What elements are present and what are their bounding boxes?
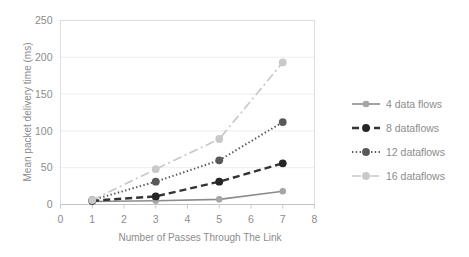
data-point-2-1: [152, 178, 160, 186]
y-tick-label-100: 100: [35, 125, 53, 137]
legend-marker-1: [362, 124, 370, 132]
y-tick-label-200: 200: [35, 51, 53, 63]
legend-label-0: 4 data flows: [386, 98, 442, 110]
x-tick-label-6: 6: [248, 213, 254, 225]
y-tick-label-250: 250: [35, 14, 53, 26]
data-point-1-1: [152, 193, 160, 201]
legend-marker-0: [363, 101, 370, 108]
x-tick-label-2: 2: [121, 213, 127, 225]
data-point-1-2: [215, 178, 223, 186]
data-point-3-0: [88, 196, 96, 204]
legend-label-2: 12 dataflows: [386, 146, 445, 158]
data-point-0-3: [279, 188, 286, 195]
y-axis-title: Mean packet delivery time (ms): [22, 43, 33, 182]
y-tick-label-50: 50: [41, 161, 53, 173]
x-tick-label-3: 3: [153, 213, 159, 225]
legend-marker-3: [362, 172, 370, 180]
x-tick-label-4: 4: [185, 213, 191, 225]
line-chart: 050100150200250 012345678 Number of Pass…: [0, 0, 469, 257]
data-point-2-3: [279, 118, 287, 126]
x-tick-label-0: 0: [58, 213, 64, 225]
y-tick-label-0: 0: [47, 198, 53, 210]
x-axis-title: Number of Passes Through The Link: [118, 232, 282, 243]
x-tick-label-7: 7: [280, 213, 286, 225]
data-point-2-2: [215, 156, 223, 164]
data-point-0-2: [216, 196, 223, 203]
x-tick-label-5: 5: [216, 213, 222, 225]
legend-label-3: 16 dataflows: [386, 170, 445, 182]
x-tick-label-1: 1: [89, 213, 95, 225]
chart-container: 050100150200250 012345678 Number of Pass…: [0, 0, 469, 257]
data-point-3-1: [152, 165, 160, 173]
legend-label-1: 8 dataflows: [386, 122, 439, 134]
x-tick-label-8: 8: [312, 213, 318, 225]
legend-marker-2: [362, 148, 370, 156]
data-point-3-3: [279, 59, 287, 67]
data-point-1-3: [279, 159, 287, 167]
data-point-3-2: [215, 135, 223, 143]
y-tick-label-150: 150: [35, 88, 53, 100]
